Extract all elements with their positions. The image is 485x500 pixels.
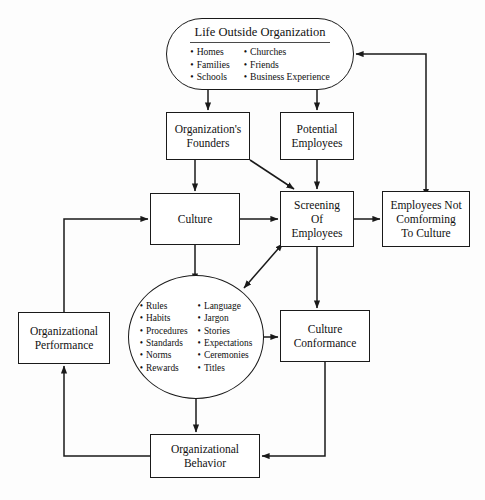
life-outside-bullet-columns: Homes Families Schools Churches Friends … <box>177 46 343 83</box>
core-bullet-columns: Rules Habits Procedures Standards Norms … <box>129 300 263 374</box>
node-label: Organizational Performance <box>30 324 98 352</box>
node-life-outside-heading: Life Outside Organization <box>190 25 330 43</box>
list-item: Rules <box>140 300 188 312</box>
node-organizational-behavior[interactable]: Organizational Behavior <box>150 434 260 478</box>
edge-screening-core-double <box>244 249 278 288</box>
list-item: Jargon <box>198 312 253 324</box>
edge-founders-to-screening <box>250 160 294 189</box>
list-item: Expectations <box>198 337 253 349</box>
list-item: Churches <box>244 46 330 58</box>
list-item: Norms <box>140 349 188 361</box>
edge-behavior-to-performance <box>64 366 150 456</box>
node-employees-not-comforming-to-culture[interactable]: Employees Not Comforming To Culture <box>382 191 470 247</box>
life-outside-bullets-left: Homes Families Schools <box>190 46 229 83</box>
node-culture[interactable]: Culture <box>150 193 240 245</box>
node-organizational-performance[interactable]: Organizational Performance <box>18 312 110 364</box>
list-item: Titles <box>198 362 253 374</box>
list-item: Business Experience <box>244 71 330 83</box>
list-item: Friends <box>244 59 330 71</box>
node-culture-conformance[interactable]: Culture Conformance <box>280 310 370 362</box>
life-outside-bullets-right: Churches Friends Business Experience <box>244 46 330 83</box>
core-bullets-left: Rules Habits Procedures Standards Norms … <box>140 300 188 374</box>
node-life-outside-organization[interactable]: Life Outside Organization Homes Families… <box>166 18 354 90</box>
edge-nonconforming-to-life <box>356 54 426 189</box>
node-organizations-founders[interactable]: Organization's Founders <box>166 112 250 160</box>
list-item: Stories <box>198 325 253 337</box>
node-label: Organization's Founders <box>175 122 241 150</box>
list-item: Homes <box>190 46 229 58</box>
list-item: Language <box>198 300 253 312</box>
edge-conformance-to-behavior <box>262 362 325 456</box>
list-item: Families <box>190 59 229 71</box>
list-item: Habits <box>140 312 188 324</box>
core-bullets-right: Language Jargon Stories Expectations Cer… <box>198 300 253 374</box>
list-item: Ceremonies <box>198 349 253 361</box>
edge-performance-to-culture <box>64 219 148 312</box>
node-potential-employees[interactable]: Potential Employees <box>280 112 354 160</box>
node-label: Potential Employees <box>291 122 342 150</box>
list-item: Schools <box>190 71 229 83</box>
node-culture-elements-ellipse[interactable]: Rules Habits Procedures Standards Norms … <box>128 275 264 399</box>
node-label: Screening Of Employees <box>291 198 342 240</box>
node-label: Culture Conformance <box>294 322 357 350</box>
node-label: Employees Not Comforming To Culture <box>390 198 461 240</box>
list-item: Standards <box>140 337 188 349</box>
node-label: Organizational Behavior <box>171 442 239 470</box>
diagram-canvas: Life Outside Organization Homes Families… <box>0 0 485 500</box>
node-screening-of-employees[interactable]: Screening Of Employees <box>280 191 354 247</box>
list-item: Rewards <box>140 362 188 374</box>
list-item: Procedures <box>140 325 188 337</box>
node-label: Culture <box>178 212 213 226</box>
